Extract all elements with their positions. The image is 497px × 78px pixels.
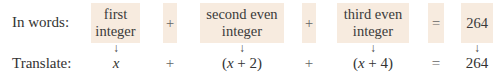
translate-third-term: (x + 4) bbox=[336, 55, 410, 72]
third-even-integer-box: third even integer bbox=[337, 3, 409, 43]
down-arrow-icon: ↓ bbox=[237, 42, 247, 54]
equals-sign-words: = bbox=[432, 15, 440, 31]
translate-plus-2: + bbox=[302, 55, 316, 72]
third-even-integer-line1: third even bbox=[337, 6, 409, 23]
plus-sign-1: + bbox=[166, 15, 174, 31]
second-even-integer-box: second even integer bbox=[200, 3, 284, 43]
plus-box-1: + bbox=[163, 3, 177, 43]
down-arrow-icon: ↓ bbox=[472, 42, 482, 54]
translate-plus-1: + bbox=[163, 55, 177, 72]
second-even-integer-line2: integer bbox=[200, 23, 284, 40]
result-box: 264 bbox=[461, 3, 493, 43]
third-even-integer-line2: integer bbox=[337, 23, 409, 40]
plus-box-2: + bbox=[302, 3, 316, 43]
translate-third-expression: (x + 4) bbox=[353, 55, 393, 71]
translate-label: Translate: bbox=[12, 55, 71, 72]
plus-sign-2: + bbox=[305, 15, 313, 31]
down-arrow-icon: ↓ bbox=[368, 42, 378, 54]
result-words: 264 bbox=[466, 15, 488, 31]
translate-equals: = bbox=[428, 55, 444, 72]
translate-first-term: x bbox=[106, 55, 126, 72]
translate-result: 264 bbox=[461, 55, 493, 72]
first-integer-line2: integer bbox=[91, 23, 140, 40]
down-arrow-icon: ↓ bbox=[111, 42, 121, 54]
first-integer-line1: first bbox=[91, 6, 140, 23]
first-integer-box: first integer bbox=[91, 3, 140, 43]
in-words-label: In words: bbox=[12, 14, 69, 31]
equals-box: = bbox=[428, 3, 444, 43]
second-even-integer-line1: second even bbox=[200, 6, 284, 23]
translate-second-expression: (x + 2) bbox=[222, 55, 262, 71]
translate-second-term: (x + 2) bbox=[205, 55, 279, 72]
